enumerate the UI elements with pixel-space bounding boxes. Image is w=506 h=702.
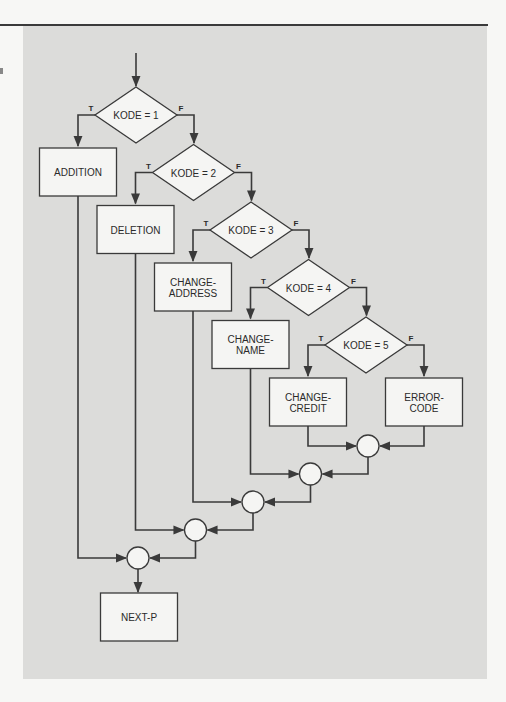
false-branch — [292, 230, 309, 258]
merge-line — [308, 426, 356, 446]
process-label: CODE — [410, 403, 439, 414]
true-label: T — [261, 277, 266, 286]
decision-label: KODE = 5 — [343, 340, 389, 351]
false-label: F — [294, 219, 299, 228]
decision-label: KODE = 2 — [171, 168, 217, 179]
process-label: ADDITION — [54, 167, 102, 178]
true-label: T — [204, 219, 209, 228]
process-label: CREDIT — [289, 403, 326, 414]
process-label: ADDRESS — [169, 288, 218, 299]
merge-line — [265, 485, 311, 502]
merge-line — [208, 513, 254, 530]
false-label: F — [409, 334, 414, 343]
connector-circle-4 — [185, 519, 207, 541]
process-label: CHANGE- — [227, 334, 273, 345]
false-branch — [235, 173, 252, 201]
false-label: F — [351, 277, 356, 286]
true-branch — [308, 345, 325, 376]
process-label: NAME — [236, 345, 265, 356]
false-branch — [407, 345, 424, 376]
merge-line — [380, 426, 424, 446]
process-label: CHANGE- — [170, 277, 216, 288]
decision-label: KODE = 1 — [113, 110, 159, 121]
process-label: DELETION — [110, 225, 160, 236]
connector-circle-2 — [300, 463, 322, 485]
flowchart: KODE = 1TFKODE = 2TFKODE = 3TFKODE = 4TF… — [0, 0, 506, 702]
connector-circle-3 — [242, 491, 264, 513]
decision-label: KODE = 3 — [228, 225, 274, 236]
false-label: F — [236, 162, 241, 171]
connector-circle-5 — [127, 547, 149, 569]
true-label: T — [146, 162, 151, 171]
true-branch — [193, 230, 210, 261]
merge-line — [323, 457, 369, 474]
process-label: CHANGE- — [285, 392, 331, 403]
false-branch — [350, 288, 367, 316]
false-branch — [177, 115, 194, 143]
process-label: ERROR- — [404, 392, 443, 403]
true-branch — [136, 173, 153, 204]
true-label: T — [319, 334, 324, 343]
true-label: T — [89, 104, 94, 113]
connector-circle-1 — [357, 435, 379, 457]
merge-line — [150, 541, 196, 558]
false-label: F — [179, 104, 184, 113]
terminal-label: NEXT-P — [121, 612, 157, 623]
true-branch — [251, 288, 268, 319]
decision-label: KODE = 4 — [286, 283, 332, 294]
true-branch — [78, 115, 95, 146]
